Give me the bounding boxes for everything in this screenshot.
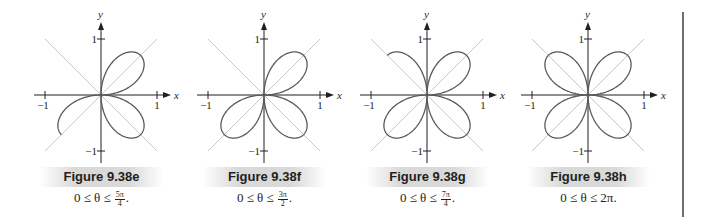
polar-plot: x y 1 −1 1 −1 [346,0,509,170]
figure-panel-e: x y 1 −1 1 −1 Figure 9.38e 0 ≤ θ ≤5π4. [20,0,183,217]
x-axis-arrow-icon [489,92,497,98]
x-axis-label: x [336,89,342,101]
range-plain: 0 ≤ θ ≤ 2π. [560,190,616,205]
figure-panel-h: x y 1 −1 1 −1 Figure 9.38h 0 ≤ θ ≤ 2π. [507,0,670,217]
figure-label: Figure 9.38g [366,167,489,187]
tick-label-y-neg: −1 [248,145,260,157]
x-axis-label: x [499,89,505,101]
theta-range: 0 ≤ θ ≤ 2π. [507,188,670,208]
theta-range: 0 ≤ θ ≤3π2. [183,188,346,208]
range-fraction: 5π4 [115,191,125,208]
figure-panel-f: x y 1 −1 1 −1 Figure 9.38f 0 ≤ θ ≤3π2. [183,0,346,217]
tick-label-x-pos: 1 [317,99,323,111]
y-axis-label: y [584,8,590,20]
tick-label-y-neg: −1 [572,145,584,157]
tick-label-y-pos: 1 [418,33,424,45]
tick-label-x-neg: −1 [363,99,375,111]
polar-plot: x y 1 −1 1 −1 [183,0,346,170]
fraction-denominator: 4 [441,200,451,208]
tick-label-x-pos: 1 [154,99,160,111]
tick-label-x-neg: −1 [524,99,536,111]
figure-label: Figure 9.38e [40,167,163,187]
fraction-denominator: 4 [115,200,125,208]
tick-label-y-pos: 1 [92,33,98,45]
y-axis-arrow-icon [424,22,430,30]
y-axis-arrow-icon [261,22,267,30]
y-axis-arrow-icon [585,22,591,30]
figure-label: Figure 9.38f [203,167,326,187]
x-axis-label: x [660,89,666,101]
x-axis-arrow-icon [163,92,171,98]
range-suffix: . [289,190,292,205]
y-axis-label: y [423,8,429,20]
range-suffix: . [452,190,455,205]
x-axis-label: x [173,89,179,101]
y-axis-arrow-icon [98,22,104,30]
tick-label-x-neg: −1 [37,99,49,111]
polar-plot: x y 1 −1 1 −1 [507,0,670,170]
range-prefix: 0 ≤ θ ≤ [237,190,274,205]
range-fraction: 7π4 [441,191,451,208]
fraction-denominator: 2 [278,200,288,208]
theta-range: 0 ≤ θ ≤5π4. [20,188,183,208]
tick-label-y-neg: −1 [85,145,97,157]
range-fraction: 3π2 [278,191,288,208]
y-axis-label: y [97,8,103,20]
figure-label: Figure 9.38h [527,167,650,187]
figure-panel-g: x y 1 −1 1 −1 Figure 9.38g 0 ≤ θ ≤7π4. [346,0,509,217]
range-prefix: 0 ≤ θ ≤ [74,190,111,205]
tick-label-y-pos: 1 [579,33,585,45]
column-divider [682,12,684,217]
polar-plot: x y 1 −1 1 −1 [20,0,183,170]
tick-label-x-neg: −1 [200,99,212,111]
tick-label-x-pos: 1 [480,99,486,111]
theta-range: 0 ≤ θ ≤7π4. [346,188,509,208]
x-axis-arrow-icon [326,92,334,98]
range-suffix: . [126,190,129,205]
range-prefix: 0 ≤ θ ≤ [400,190,437,205]
tick-label-x-pos: 1 [641,99,647,111]
tick-label-y-neg: −1 [411,145,423,157]
y-axis-label: y [260,8,266,20]
x-axis-arrow-icon [650,92,658,98]
tick-label-y-pos: 1 [255,33,261,45]
